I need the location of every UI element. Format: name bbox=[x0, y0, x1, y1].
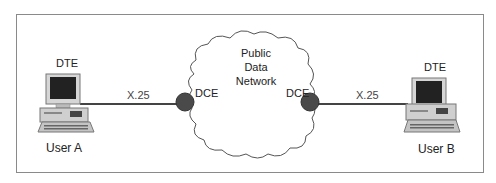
user-b-computer-icon bbox=[404, 78, 460, 132]
x25-label-right: X.25 bbox=[356, 90, 379, 101]
network-label-line3: Network bbox=[226, 74, 286, 88]
user-b-dte-label: DTE bbox=[424, 62, 446, 73]
user-b-label: User B bbox=[418, 143, 455, 155]
user-a-dte-label: DTE bbox=[56, 58, 78, 69]
dce-left-node bbox=[176, 93, 194, 111]
network-label-line1: Public bbox=[226, 46, 286, 60]
user-a-label: User A bbox=[46, 142, 82, 154]
dce-right-label: DCE bbox=[286, 88, 309, 99]
network-label: Public Data Network bbox=[226, 46, 286, 88]
x25-label-left: X.25 bbox=[127, 90, 150, 101]
network-label-line2: Data bbox=[226, 60, 286, 74]
dce-left-label: DCE bbox=[195, 88, 218, 99]
